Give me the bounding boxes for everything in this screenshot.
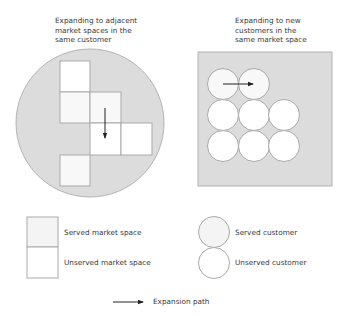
legend-unserved-square	[27, 247, 58, 278]
right-panel-title: Expanding to new customers in the same m…	[235, 16, 307, 45]
market-space-cell	[121, 123, 152, 155]
legend-served-market-space-label: Served market space	[64, 228, 142, 237]
legend-served-customer-label: Served customer	[235, 228, 297, 237]
legend-unserved-market-space-label: Unserved market space	[64, 258, 151, 267]
market-space-cell	[60, 92, 90, 123]
legend-expansion-path-label: Expansion path	[153, 297, 209, 306]
market-space-cell	[60, 61, 90, 92]
market-space-cell	[60, 155, 90, 186]
legend-unserved-customer-label: Unserved customer	[235, 258, 306, 267]
customer-circle	[239, 100, 270, 131]
customer-circle	[269, 100, 300, 131]
left-panel-title: Expanding to adjacent market spaces in t…	[55, 16, 137, 45]
legend-served-square	[27, 217, 58, 247]
legend-served-circle	[199, 217, 230, 248]
customer-circle	[269, 131, 300, 162]
customer-circle	[239, 131, 270, 162]
legend-unserved-circle	[199, 248, 230, 279]
customer-circle	[208, 100, 239, 131]
customer-circle	[208, 131, 239, 162]
diagram-canvas	[0, 0, 343, 316]
